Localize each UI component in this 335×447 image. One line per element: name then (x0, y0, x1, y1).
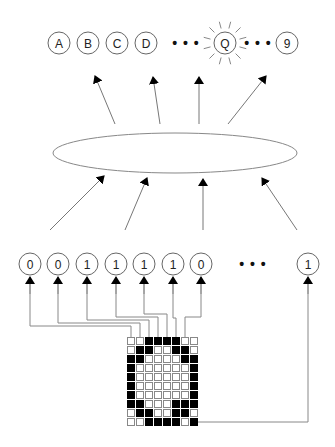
pixel-on (191, 392, 198, 399)
node-B: B (77, 32, 99, 54)
pixel-off (155, 401, 162, 408)
pixel-off (173, 356, 180, 363)
ellipsis-dots: • • • (239, 256, 266, 272)
hidden-to-output-connections (95, 76, 266, 124)
pixel-on (155, 419, 162, 426)
pixel-off (182, 338, 189, 345)
node-Q: Q (214, 32, 236, 54)
node-D: D (135, 32, 157, 54)
node-label: 1 (141, 258, 148, 272)
pixel-off (155, 374, 162, 381)
node-label: A (55, 37, 63, 51)
pixel-on (137, 356, 144, 363)
input-layer: 00111101 (19, 253, 319, 275)
pixel-off (146, 383, 153, 390)
pixel-off (182, 419, 189, 426)
node-label: 0 (55, 258, 62, 272)
pixel-off (146, 374, 153, 381)
pixel-on (191, 383, 198, 390)
pixel-on (155, 338, 162, 345)
node-label: 0 (198, 258, 205, 272)
pixel-off (164, 383, 171, 390)
pixel-off (182, 392, 189, 399)
pixel-off (128, 419, 135, 426)
pixel-off (137, 392, 144, 399)
pixel-off (173, 383, 180, 390)
node-label: Q (220, 37, 229, 51)
pixel-off (182, 365, 189, 372)
pixel-off (155, 365, 162, 372)
pixel-on (128, 392, 135, 399)
node-label: 1 (113, 258, 120, 272)
pixel-on (164, 338, 171, 345)
pixel-off (173, 365, 180, 372)
pixel-on (137, 410, 144, 417)
pixel-off (164, 365, 171, 372)
pixel-on (173, 338, 180, 345)
node-0: 0 (47, 253, 69, 275)
pixel-on (146, 338, 153, 345)
node-1: 1 (76, 253, 98, 275)
pixel-on (128, 365, 135, 372)
hidden-layer (53, 133, 297, 173)
pixel-on (137, 401, 144, 408)
pixel-on (182, 356, 189, 363)
pixel-off (146, 356, 153, 363)
pixel-off (182, 383, 189, 390)
pixel-on (173, 410, 180, 417)
pixel-off (164, 347, 171, 354)
pixel-on (191, 419, 198, 426)
pixel-off (128, 410, 135, 417)
node-1: 1 (133, 253, 155, 275)
ellipsis-dots: • • • (172, 35, 199, 51)
node-label: 9 (284, 37, 291, 51)
ellipsis-dots: • • • (244, 35, 271, 51)
node-label: 0 (27, 258, 34, 272)
pixel-on (173, 401, 180, 408)
pixel-off (164, 410, 171, 417)
pixel-off (155, 347, 162, 354)
pixel-off (137, 374, 144, 381)
pixel-on (182, 410, 189, 417)
input-to-hidden-connections (50, 176, 297, 230)
pixel-off (173, 392, 180, 399)
pixel-off (173, 374, 180, 381)
pixel-on (146, 347, 153, 354)
node-1: 1 (297, 253, 319, 275)
pixel-off (146, 392, 153, 399)
pixel-on (182, 401, 189, 408)
pixel-off (164, 374, 171, 381)
node-1: 1 (105, 253, 127, 275)
pixel-off (191, 410, 198, 417)
node-label: 1 (84, 258, 91, 272)
pixel-off (137, 365, 144, 372)
pixel-on (128, 401, 135, 408)
node-label: D (142, 37, 151, 51)
pixel-off (137, 383, 144, 390)
pixel-on (173, 347, 180, 354)
pixel-off (146, 365, 153, 372)
node-9: 9 (276, 32, 298, 54)
node-0: 0 (19, 253, 41, 275)
node-1: 1 (162, 253, 184, 275)
pixel-on (128, 356, 135, 363)
node-label: 1 (305, 258, 312, 272)
pixel-off (182, 374, 189, 381)
pixel-on (146, 419, 153, 426)
node-A: A (48, 32, 70, 54)
pixel-off (137, 419, 144, 426)
pixel-on (191, 401, 198, 408)
pixel-off (191, 347, 198, 354)
pixel-off (155, 392, 162, 399)
pixel-off (137, 338, 144, 345)
pixel-off (128, 338, 135, 345)
pixel-on (128, 374, 135, 381)
node-C: C (106, 32, 128, 54)
neural-network-diagram: ABCDQ9 • • •• • • 00111101 • • • (0, 0, 335, 447)
pixel-on (137, 347, 144, 354)
pixel-on (182, 347, 189, 354)
pixel-off (128, 347, 135, 354)
pixel-off (155, 356, 162, 363)
pixel-on (164, 419, 171, 426)
pixel-off (164, 356, 171, 363)
